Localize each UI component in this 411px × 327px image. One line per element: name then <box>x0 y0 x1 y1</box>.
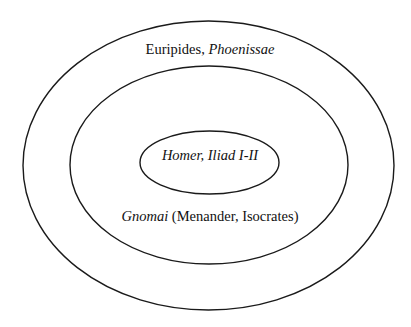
outer-label-part-author: Euripides, <box>146 41 209 57</box>
nested-ellipse-diagram: Euripides, Phoenissae Gnomai (Menander, … <box>0 0 411 327</box>
inner-label-part-homer: Homer, Iliad I-II <box>161 147 259 163</box>
outer-label-part-title: Phoenissae <box>207 41 275 57</box>
inner-ring-label: Homer, Iliad I-II <box>161 147 259 163</box>
outer-ring-label: Euripides, Phoenissae <box>146 41 275 57</box>
middle-ring-label: Gnomai (Menander, Isocrates) <box>122 208 299 225</box>
middle-label-part-authors: (Menander, Isocrates) <box>168 208 298 225</box>
middle-label-part-gnomai: Gnomai <box>122 208 169 224</box>
